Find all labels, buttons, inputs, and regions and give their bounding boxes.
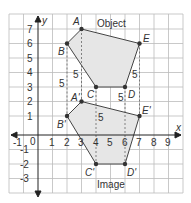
svg-text:4: 4	[27, 67, 33, 78]
svg-text:3: 3	[78, 137, 84, 148]
svg-text:C': C'	[85, 167, 95, 178]
svg-text:-1: -1	[20, 144, 29, 155]
svg-text:5: 5	[107, 137, 113, 148]
svg-text:B': B'	[57, 119, 67, 130]
svg-text:5: 5	[118, 92, 124, 103]
svg-text:7: 7	[27, 24, 33, 35]
svg-text:5: 5	[59, 78, 65, 89]
svg-text:A: A	[72, 16, 80, 27]
x-axis-label: x	[175, 122, 182, 133]
svg-text:4: 4	[93, 137, 99, 148]
svg-text:2: 2	[64, 137, 70, 148]
svg-text:2: 2	[27, 96, 33, 107]
svg-text:D: D	[128, 89, 135, 100]
svg-text:1: 1	[49, 137, 55, 148]
svg-text:3: 3	[27, 82, 33, 93]
svg-text:E': E'	[142, 105, 152, 116]
svg-text:7: 7	[136, 137, 142, 148]
svg-text:D': D'	[127, 167, 137, 178]
image-shape	[67, 102, 140, 165]
svg-text:C: C	[87, 89, 95, 100]
image-title: Image	[97, 179, 125, 190]
translation-diagram: x y -1 0 1 2 3 4 5 6 7 8 9 7 6 5 4 3 2 1…	[0, 0, 191, 203]
svg-text:-3: -3	[20, 173, 29, 184]
y-axis-label: y	[41, 15, 48, 26]
svg-text:0: 0	[30, 136, 36, 147]
svg-text:6: 6	[122, 137, 128, 148]
svg-text:5: 5	[27, 53, 33, 64]
svg-text:E: E	[143, 33, 150, 44]
object-title: Object	[97, 18, 126, 29]
svg-text:-2: -2	[20, 159, 29, 170]
svg-text:A': A'	[70, 92, 81, 103]
y-tick-labels: 7 6 5 4 3 2 1 -1 -2 -3	[20, 24, 33, 184]
svg-text:5: 5	[73, 69, 79, 80]
svg-text:5: 5	[98, 112, 104, 123]
svg-text:B: B	[58, 46, 65, 57]
svg-text:9: 9	[165, 137, 171, 148]
svg-text:5: 5	[132, 69, 138, 80]
svg-text:8: 8	[151, 137, 157, 148]
svg-text:6: 6	[27, 38, 33, 49]
svg-text:1: 1	[27, 111, 33, 122]
